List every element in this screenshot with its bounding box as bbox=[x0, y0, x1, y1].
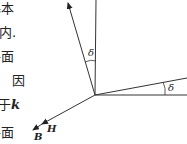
vector-H-label: H bbox=[47, 124, 56, 134]
angle-arc-upper bbox=[85, 60, 96, 62]
angle-label-upper: δ bbox=[88, 48, 94, 58]
vector-B-line bbox=[33, 124, 42, 130]
vector-H-line bbox=[42, 95, 95, 124]
vertical-axis-line bbox=[95, 0, 96, 95]
angle-label-right: δ bbox=[168, 83, 174, 93]
vector-B-label: B bbox=[34, 132, 42, 142]
vector-diagram bbox=[0, 0, 187, 144]
angle-arc-right bbox=[163, 82, 165, 95]
